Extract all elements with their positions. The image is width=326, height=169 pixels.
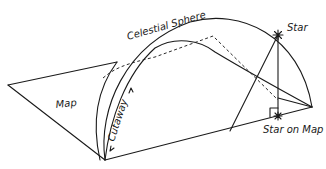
star-icon	[273, 30, 283, 40]
map-plane	[8, 62, 312, 160]
star-to-edge-line	[278, 98, 312, 107]
dashed-projection-line	[103, 36, 278, 100]
map-label: Map	[55, 97, 77, 110]
star-sight-line	[230, 35, 278, 131]
cutaway-label: Cutaway	[105, 97, 129, 143]
celestial-sphere-diagram: Celestial Sphere Star Map Cutaway Star o…	[0, 0, 326, 169]
star-on-map-icon	[274, 112, 282, 120]
map-top-edge	[8, 62, 117, 85]
celestial-sphere-label: Celestial Sphere	[126, 9, 207, 42]
cutaway-arrow-top	[129, 88, 133, 93]
map-left-edge	[8, 85, 105, 160]
cutaway-arrow-bottom	[110, 146, 114, 151]
star-on-map-label: Star on Map	[263, 124, 323, 135]
star-label: Star	[287, 22, 308, 33]
